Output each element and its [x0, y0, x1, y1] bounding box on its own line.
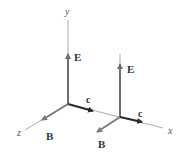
b-label-2: B — [98, 138, 106, 150]
c-vector-1 — [68, 104, 93, 111]
c-label-2: c — [138, 108, 143, 119]
vectors-point2 — [97, 64, 142, 132]
e-label-1: E — [74, 51, 81, 63]
vectors-point1 — [42, 54, 93, 120]
z-axis-label: z — [16, 127, 21, 138]
c-label-1: c — [86, 94, 91, 105]
b-label-1: B — [46, 130, 54, 142]
y-axis-label: y — [64, 6, 70, 17]
x-axis-label: x — [167, 125, 173, 136]
em-wave-diagram: y z x E B c E B c — [0, 0, 186, 161]
b-vector-2 — [97, 117, 120, 132]
b-vector-1 — [42, 104, 68, 120]
e-label-2: E — [127, 63, 134, 75]
